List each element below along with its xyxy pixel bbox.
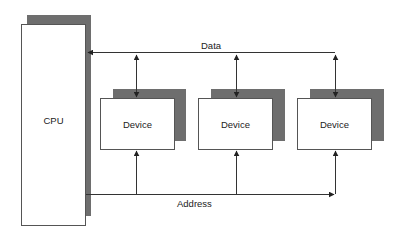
- data-bus-label: Data: [201, 40, 221, 51]
- address-bus-label: Address: [177, 198, 212, 209]
